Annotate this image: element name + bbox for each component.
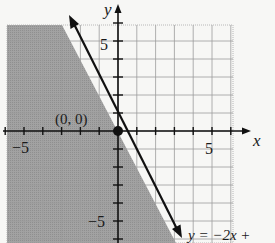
equation-text: y = −2x + xyxy=(186,227,250,243)
tick-label-x-5: 5 xyxy=(205,140,213,157)
line-arrow-up-icon xyxy=(69,15,79,29)
tick-label-y-5: 5 xyxy=(100,36,108,53)
y-axis-label: y xyxy=(102,0,112,19)
tick-label-x-neg5: −5 xyxy=(12,139,29,156)
origin-label: (0, 0) xyxy=(55,111,88,128)
equation-label: y = −2x + xyxy=(186,227,250,243)
x-axis-arrow-icon xyxy=(242,128,251,135)
x-axis-label: x xyxy=(252,131,261,150)
line-arrow-down-icon xyxy=(172,225,182,239)
y-axis-arrow-icon xyxy=(115,4,122,13)
origin-point xyxy=(113,126,123,136)
coordinate-plane: y x 5 −5 −5 5 (0, 0) y = −2x + xyxy=(0,0,275,243)
tick-label-y-neg5: −5 xyxy=(88,213,105,230)
